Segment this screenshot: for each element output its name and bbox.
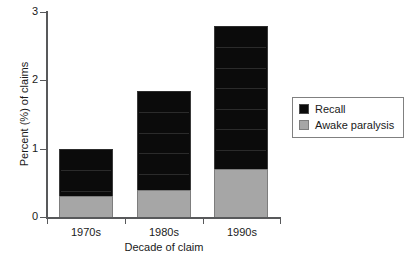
scan-artifact-line bbox=[61, 170, 111, 171]
scan-artifact-line bbox=[61, 191, 111, 192]
x-axis-tick-left bbox=[47, 219, 48, 224]
y-axis-tick-2 bbox=[40, 80, 47, 81]
gray-swatch-icon bbox=[299, 120, 309, 130]
y-axis-line bbox=[46, 11, 48, 218]
x-axis-tick-label-1970s: 1970s bbox=[51, 226, 121, 238]
bar-segment-awake-paralysis-1980s[interactable] bbox=[137, 190, 191, 217]
bar-segment-awake-paralysis-1970s[interactable] bbox=[59, 196, 113, 217]
scan-artifact-line bbox=[139, 174, 189, 175]
scan-artifact-line bbox=[216, 150, 266, 151]
y-axis-tick-label-3: 3 bbox=[18, 6, 38, 17]
x-axis-title: Decade of claim bbox=[46, 241, 282, 253]
scan-artifact-line bbox=[216, 68, 266, 69]
x-axis-tick-1 bbox=[125, 219, 126, 224]
scan-artifact-line bbox=[216, 47, 266, 48]
bar-segment-recall-1970s[interactable] bbox=[59, 149, 113, 197]
bar-1970s[interactable] bbox=[59, 149, 113, 217]
legend-item-recall[interactable]: Recall bbox=[299, 103, 397, 115]
scan-artifact-line bbox=[139, 133, 189, 134]
x-axis-tick-2 bbox=[203, 219, 204, 224]
bar-1980s[interactable] bbox=[137, 91, 191, 217]
x-axis-tick-right bbox=[280, 219, 281, 224]
legend-item-awake-paralysis[interactable]: Awake paralysis bbox=[299, 119, 397, 131]
scan-artifact-line bbox=[216, 109, 266, 110]
x-axis-tick-label-1990s: 1990s bbox=[207, 226, 277, 238]
scan-artifact-line bbox=[139, 112, 189, 113]
scan-artifact-line bbox=[216, 88, 266, 89]
legend-label-awake-paralysis: Awake paralysis bbox=[315, 119, 394, 131]
y-axis-tick-3 bbox=[40, 12, 47, 13]
bar-1990s[interactable] bbox=[214, 26, 268, 217]
bar-segment-awake-paralysis-1990s[interactable] bbox=[214, 169, 268, 217]
x-axis-line bbox=[46, 217, 281, 219]
x-axis-tick-label-1980s: 1980s bbox=[129, 226, 199, 238]
bar-segment-recall-1990s[interactable] bbox=[214, 26, 268, 170]
scan-artifact-line bbox=[139, 153, 189, 154]
legend: Recall Awake paralysis bbox=[292, 97, 404, 138]
y-axis-tick-label-0: 0 bbox=[18, 211, 38, 222]
y-axis-title: Percent (%) of claims bbox=[18, 34, 30, 194]
legend-label-recall: Recall bbox=[315, 103, 346, 115]
y-axis-tick-1 bbox=[40, 149, 47, 150]
stacked-bar-chart: 3 2 1 0 Percent (%) of claims 1970s 1980… bbox=[0, 0, 414, 266]
bar-segment-recall-1980s[interactable] bbox=[137, 91, 191, 190]
black-swatch-icon bbox=[299, 104, 309, 114]
scan-artifact-line bbox=[216, 129, 266, 130]
